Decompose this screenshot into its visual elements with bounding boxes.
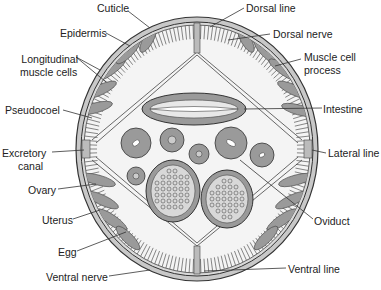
label-uterus: Uterus: [42, 214, 73, 226]
label-ventral-nerve: Ventral nerve: [46, 271, 108, 283]
label-ventral-line: Ventral line: [288, 263, 340, 275]
label-lateral-line: Lateral line: [328, 147, 379, 159]
ventral-line: [194, 246, 200, 274]
label-dorsal-line: Dorsal line: [246, 2, 296, 14]
label-muscle-cell-process-2: process: [304, 64, 341, 76]
label-longitudinal-muscle-1: Longitudinal: [20, 53, 78, 65]
label-longitudinal-muscle-2: muscle cells: [20, 66, 77, 78]
label-dorsal-nerve: Dorsal nerve: [273, 28, 333, 40]
label-cuticle: Cuticle: [97, 2, 129, 14]
label-muscle-cell-process-1: Muscle cell: [304, 51, 356, 63]
label-pseudocoel: Pseudocoel: [5, 104, 60, 116]
dorsal-line: [194, 23, 200, 53]
label-epidermis: Epidermis: [60, 27, 107, 39]
label-ovary: Ovary: [28, 184, 56, 196]
nematode-cross-section-diagram: Cuticle Epidermis Longitudinal muscle ce…: [0, 0, 381, 290]
lateral-line-left: [82, 140, 90, 158]
lateral-line-right: [304, 140, 312, 158]
label-oviduct: Oviduct: [314, 215, 350, 227]
label-intestine: Intestine: [323, 103, 363, 115]
label-egg: Egg: [58, 246, 77, 258]
label-excretory-canal-1: Excretory: [2, 147, 46, 159]
label-excretory-canal-2: canal: [18, 160, 43, 172]
